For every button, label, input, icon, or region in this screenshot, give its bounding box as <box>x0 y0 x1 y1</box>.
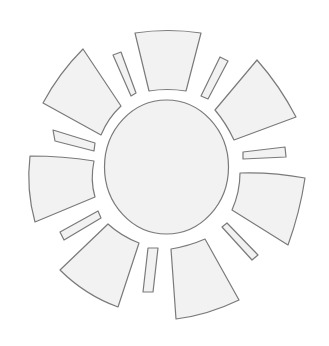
ray-wedge-bottom-left <box>60 224 139 307</box>
ray-wedge-left <box>29 156 95 222</box>
ray-wedge-top-right <box>215 60 296 140</box>
ray-right-bar <box>243 147 286 159</box>
ray-bottom-left-bar <box>60 211 101 240</box>
sun-center-circle <box>105 100 229 234</box>
ray-top-left-bar <box>113 52 136 96</box>
sun-icon <box>0 0 329 346</box>
sun-illustration <box>0 0 329 346</box>
ray-top-right-bar <box>201 57 228 99</box>
ray-bottom-right-bar <box>222 223 258 260</box>
ray-wedge-bottom-right <box>171 239 239 319</box>
ray-wedge-top-left <box>43 49 121 135</box>
ray-wedge-right <box>232 173 305 245</box>
ray-bottom-bar <box>143 248 158 292</box>
ray-left-bar <box>53 130 95 151</box>
ray-wedge-top <box>135 31 201 92</box>
